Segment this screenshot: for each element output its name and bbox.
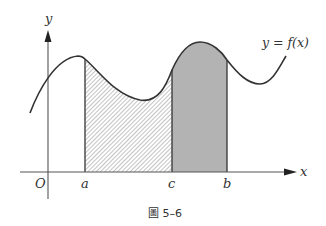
figure-5-6: y x O a c b y = f(x) 圖 5–6 — [0, 0, 326, 226]
x-axis-arrow-icon — [284, 169, 297, 176]
hatched-region-a-to-c — [85, 59, 172, 172]
x-axis-label: x — [300, 164, 308, 179]
shaded-region-c-to-b — [172, 42, 227, 172]
figure-caption: 圖 5–6 — [148, 207, 182, 220]
point-label-b: b — [223, 176, 231, 191]
point-label-a: a — [81, 176, 89, 191]
origin-label: O — [35, 176, 46, 191]
point-label-c: c — [168, 176, 176, 191]
y-axis-arrow-icon — [45, 30, 52, 42]
y-axis-label: y — [44, 11, 53, 26]
area-under-curve-diagram: y x O a c b y = f(x) 圖 5–6 — [0, 0, 326, 226]
curve-label: y = f(x) — [261, 35, 309, 50]
